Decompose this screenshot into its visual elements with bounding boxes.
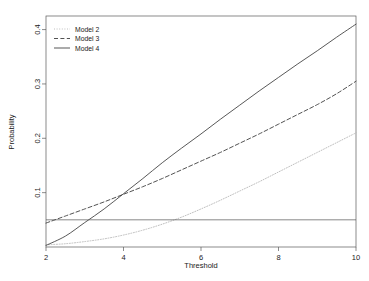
probability-threshold-line-chart: 0.10.20.30.4 246810 Threshold Probabilit… [0, 0, 369, 281]
y-tick-label: 0.1 [34, 187, 43, 197]
chart-background [0, 0, 369, 281]
y-tick-label: 0.4 [34, 24, 43, 34]
legend-label-model-4: Model 4 [75, 45, 99, 52]
x-tick-label: 8 [276, 253, 280, 262]
x-tick-label: 4 [121, 253, 125, 262]
x-axis-title: Threshold [184, 261, 217, 270]
y-tick-label: 0.2 [34, 133, 43, 143]
chart-figure: 0.10.20.30.4 246810 Threshold Probabilit… [0, 0, 369, 281]
x-tick-label: 10 [352, 253, 360, 262]
x-tick-label: 2 [44, 253, 48, 262]
y-tick-label: 0.3 [34, 79, 43, 89]
y-axis-title: Probability [7, 114, 16, 149]
legend-label-model-3: Model 3 [75, 35, 99, 42]
legend-label-model-2: Model 2 [75, 26, 99, 33]
